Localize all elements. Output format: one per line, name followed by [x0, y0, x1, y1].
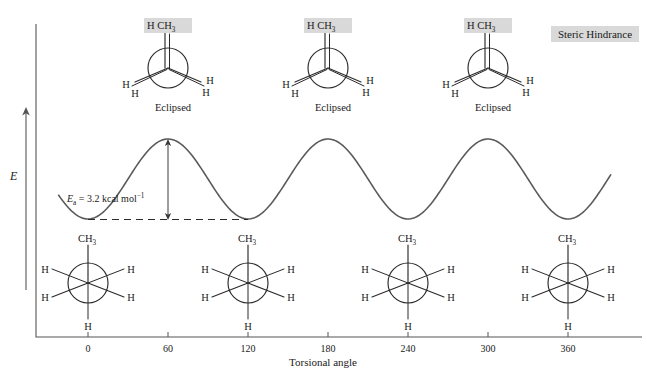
staggered-ch3-label: CH3 — [558, 233, 577, 247]
staggered-h-label: H — [201, 292, 209, 303]
x-axis-label: Torsional angle — [289, 356, 357, 368]
ethane-torsional-energy-figure: E060120180240300360Torsional angleEa = 3… — [0, 0, 647, 372]
staggered-h-label: H — [287, 292, 295, 303]
newman-projection-eclipsed: H CH3HHHHEclipsed — [282, 18, 374, 113]
staggered-h-label: H — [201, 264, 209, 275]
staggered-ch3-label: CH3 — [78, 233, 97, 247]
steric-hindrance-label: Steric Hindrance — [551, 26, 639, 42]
x-tick-label: 180 — [321, 343, 336, 354]
energy-curve — [59, 139, 611, 219]
newman-projection-eclipsed: H CH3HHHHEclipsed — [122, 18, 214, 113]
x-tick-label: 0 — [86, 343, 91, 354]
eclipsed-h-label: H — [202, 87, 210, 98]
staggered-h-label: H — [447, 264, 455, 275]
x-tick-label: 240 — [401, 343, 416, 354]
newman-projection-staggered: CH3HHHHH — [361, 233, 455, 332]
activation-energy-annotation: Ea = 3.2 kcal mol−1 — [66, 139, 248, 220]
eclipsed-h-label: H — [122, 79, 130, 90]
staggered-h-label: H — [361, 292, 369, 303]
eclipsed-h-label: H — [282, 79, 290, 90]
steric-hindrance-text: Steric Hindrance — [558, 28, 632, 40]
newman-projection-staggered: CH3HHHHH — [41, 233, 135, 332]
staggered-h-label: H — [244, 321, 252, 332]
newman-projection-staggered: CH3HHHHH — [521, 233, 615, 332]
eclipsed-h-label: H — [442, 79, 450, 90]
staggered-h-label: H — [361, 264, 369, 275]
y-axis-label: E — [9, 169, 18, 183]
eclipsed-h-label: H — [362, 87, 370, 98]
x-tick-label: 60 — [163, 343, 173, 354]
x-axis-ticks: 060120180240300360 — [86, 332, 576, 354]
eclipsed-h-label: H — [291, 88, 299, 99]
newman-projection-eclipsed: H CH3HHHHEclipsed — [442, 18, 534, 113]
x-tick-label: 300 — [481, 343, 496, 354]
energy-diagram-svg: E060120180240300360Torsional angleEa = 3… — [0, 0, 647, 372]
eclipsed-caption: Eclipsed — [475, 102, 512, 113]
newman-projection-staggered: CH3HHHHH — [201, 233, 295, 332]
eclipsed-h-label: H — [522, 87, 530, 98]
eclipsed-h-label: H — [131, 88, 139, 99]
staggered-h-label: H — [41, 292, 49, 303]
eclipsed-h-label: H — [206, 75, 214, 86]
staggered-h-label: H — [521, 292, 529, 303]
staggered-h-label: H — [521, 264, 529, 275]
staggered-h-label: H — [84, 321, 92, 332]
staggered-h-label: H — [447, 292, 455, 303]
eclipsed-h-label: H — [451, 88, 459, 99]
y-axis-energy-arrow: E — [9, 107, 30, 290]
x-tick-label: 360 — [561, 343, 576, 354]
eclipsed-h-label: H — [526, 75, 534, 86]
staggered-h-label: H — [607, 264, 615, 275]
staggered-h-label: H — [287, 264, 295, 275]
staggered-h-label: H — [127, 292, 135, 303]
staggered-h-label: H — [404, 321, 412, 332]
staggered-h-label: H — [607, 292, 615, 303]
staggered-h-label: H — [127, 264, 135, 275]
eclipsed-h-label: H — [366, 75, 374, 86]
staggered-h-label: H — [41, 264, 49, 275]
eclipsed-caption: Eclipsed — [155, 102, 192, 113]
staggered-ch3-label: CH3 — [238, 233, 257, 247]
eclipsed-caption: Eclipsed — [315, 102, 352, 113]
x-tick-label: 120 — [241, 343, 256, 354]
ea-label: Ea = 3.2 kcal mol−1 — [66, 192, 145, 206]
staggered-ch3-label: CH3 — [398, 233, 417, 247]
staggered-h-label: H — [564, 321, 572, 332]
